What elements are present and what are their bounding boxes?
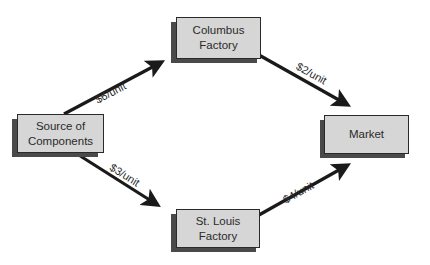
node-columbus-factory: Columbus Factory: [176, 17, 261, 59]
node-label-columbus: Columbus Factory: [193, 23, 245, 53]
node-stlouis-factory: St. Louis Factory: [176, 209, 260, 248]
node-label-market: Market: [349, 127, 384, 142]
node-label-stlouis: St. Louis Factory: [196, 214, 241, 244]
node-market: Market: [324, 115, 409, 154]
node-label-source: Source of Components: [28, 119, 93, 149]
arrow-source-to-stlouis: [74, 152, 156, 204]
node-source-of-components: Source of Components: [17, 114, 104, 153]
network-diagram: $6/unit $2/unit $3/unit $4/unit Source o…: [0, 0, 430, 265]
